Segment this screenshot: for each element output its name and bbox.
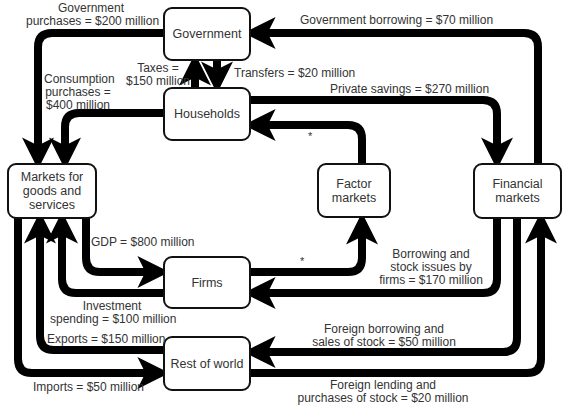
label-transfers: Transfers = $20 million	[234, 67, 355, 80]
label-line: sales of stock = $50 million	[300, 336, 468, 349]
label-line: purchases = $200 million	[26, 15, 156, 28]
asterisk-marker-lower: *	[300, 255, 304, 267]
node-rest-of-world: Rest of world	[163, 336, 251, 391]
flow-consumption	[65, 113, 163, 155]
label-imports: Imports = $50 million	[33, 381, 144, 394]
node-financial-label: Financial markets	[488, 177, 548, 205]
flow-firms-to-factor	[250, 227, 362, 272]
label-line: $150 million	[122, 75, 194, 88]
label-exports: Exports = $150 million	[47, 333, 165, 346]
node-factor-label: Factor markets	[328, 177, 380, 205]
node-households: Households	[163, 87, 251, 141]
node-rest-of-world-label: Rest of world	[171, 357, 244, 371]
label-government-borrowing: Government borrowing = $70 million	[300, 14, 493, 27]
label-consumption: Consumption purchases = $400 million	[44, 73, 112, 112]
node-households-label: Households	[174, 107, 240, 121]
label-gdp: GDP = $800 million	[91, 236, 195, 249]
label-investment: Investment spending = $100 million	[50, 300, 174, 326]
label-government-purchases: Government purchases = $200 million	[26, 2, 156, 28]
node-factor-markets: Factor markets	[317, 163, 391, 218]
label-foreign-borrowing: Foreign borrowing and sales of stock = $…	[300, 323, 468, 349]
node-government-label: Government	[173, 27, 242, 41]
node-markets: Markets for goods and services	[7, 163, 97, 219]
label-foreign-lending: Foreign lending and purchases of stock =…	[290, 379, 476, 405]
asterisk-marker-upper: *	[308, 130, 312, 142]
label-taxes: Taxes = $150 million	[122, 62, 194, 88]
label-borrowing-firms: Borrowing and stock issues by firms = $1…	[378, 248, 484, 287]
node-government: Government	[163, 7, 251, 61]
label-line: firms = $170 million	[378, 274, 484, 287]
node-firms: Firms	[163, 256, 251, 309]
label-line: purchases of stock = $20 million	[290, 392, 476, 405]
node-firms-label: Firms	[191, 276, 222, 290]
label-private-savings: Private savings = $270 million	[330, 83, 489, 96]
node-markets-label: Markets for goods and services	[16, 170, 88, 212]
label-line: $400 million	[44, 99, 112, 112]
node-financial-markets: Financial markets	[473, 163, 562, 219]
label-line: spending = $100 million	[50, 313, 174, 326]
